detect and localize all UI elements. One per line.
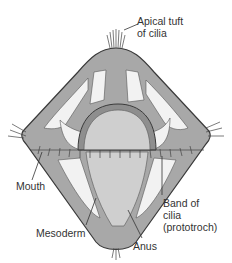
label-mouth: Mouth xyxy=(16,180,45,192)
label-apical-tuft: Apical tuft of cilia xyxy=(137,15,183,39)
label-mesoderm: Mesoderm xyxy=(36,227,86,239)
label-prototroch: Band of cilia (prototroch) xyxy=(163,197,217,233)
apical-tuft xyxy=(107,29,125,48)
label-anus: Anus xyxy=(133,240,157,252)
